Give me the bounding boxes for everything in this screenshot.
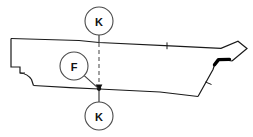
callout-bubble-section-bottom[interactable]: K	[85, 102, 113, 130]
callout-bubble-section-top[interactable]: K	[85, 7, 113, 35]
lower-body-edge	[34, 86, 199, 97]
callout-label-k-top: K	[95, 16, 103, 28]
callout-label-f: F	[71, 61, 78, 73]
drawing-svg: K F K	[0, 0, 253, 137]
right-rising-diagonal	[198, 64, 215, 97]
callout-bubble-detail-f[interactable]: F	[60, 52, 88, 80]
body-outline-group	[11, 39, 247, 97]
technical-drawing-canvas: K F K	[0, 0, 253, 137]
diagonal-edge-tick	[206, 82, 212, 85]
detail-bubble-leader-line	[84, 76, 98, 89]
section-cut-line-group	[96, 35, 103, 102]
notch-fillet	[20, 73, 34, 86]
upper-body-outline	[11, 39, 247, 62]
thick-edge-feature	[215, 59, 230, 64]
callout-label-k-bottom: K	[95, 111, 103, 123]
left-stepped-notch-edge	[11, 39, 25, 74]
